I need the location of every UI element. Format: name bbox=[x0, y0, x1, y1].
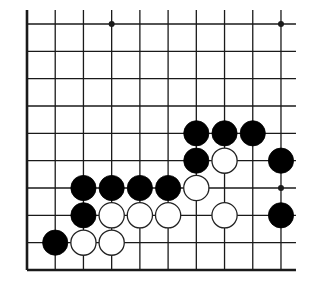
black-stone bbox=[268, 203, 293, 228]
black-stone bbox=[184, 121, 209, 146]
white-stone bbox=[156, 203, 181, 228]
white-stone bbox=[127, 203, 152, 228]
black-stone bbox=[212, 121, 237, 146]
black-stone bbox=[156, 175, 181, 200]
white-stone bbox=[71, 230, 96, 255]
white-stone bbox=[99, 230, 124, 255]
white-stone bbox=[212, 203, 237, 228]
black-stone bbox=[184, 148, 209, 173]
black-stone bbox=[268, 148, 293, 173]
star-point bbox=[109, 21, 115, 27]
go-board bbox=[0, 0, 324, 285]
star-point bbox=[278, 185, 284, 191]
star-point bbox=[278, 21, 284, 27]
white-stone bbox=[212, 148, 237, 173]
white-stone bbox=[184, 175, 209, 200]
white-stone bbox=[99, 203, 124, 228]
black-stone bbox=[240, 121, 265, 146]
black-stone bbox=[127, 175, 152, 200]
black-stone bbox=[71, 175, 96, 200]
black-stone bbox=[43, 230, 68, 255]
black-stone bbox=[99, 175, 124, 200]
go-board-svg bbox=[0, 0, 324, 285]
black-stone bbox=[71, 203, 96, 228]
